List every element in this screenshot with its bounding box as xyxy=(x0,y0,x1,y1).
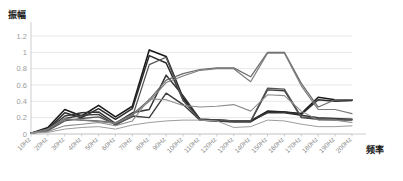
y-tick-label: 0 xyxy=(23,130,27,139)
y-tick-label: 0.8 xyxy=(17,64,27,73)
x-tick-label: 120Hz xyxy=(199,136,217,154)
chart-container: 振幅 频率 10Hz20Hz30Hz40Hz50Hz60Hz70Hz80Hz90… xyxy=(0,0,403,181)
y-tick-label: 0.4 xyxy=(17,97,27,106)
y-tick-label: 1.2 xyxy=(17,32,27,41)
x-tick-labels: 10Hz20Hz30Hz40Hz50Hz60Hz70Hz80Hz90Hz100H… xyxy=(16,136,353,154)
data-series-line xyxy=(31,50,352,133)
y-tick-label: 0.6 xyxy=(17,81,27,90)
data-series-line xyxy=(31,120,352,133)
x-tick-label: 170Hz xyxy=(284,136,302,154)
x-tick-label: 20Hz xyxy=(33,136,49,152)
x-tick-label: 190Hz xyxy=(317,136,335,154)
x-tick-label: 70Hz xyxy=(117,136,133,152)
line-chart-plot: 10Hz20Hz30Hz40Hz50Hz60Hz70Hz80Hz90Hz100H… xyxy=(0,0,403,181)
y-tick-labels: 00.20.40.60.811.2 xyxy=(17,32,27,139)
x-tick-label: 40Hz xyxy=(67,136,83,152)
y-tick-label: 1 xyxy=(23,48,27,57)
x-tick-label: 80Hz xyxy=(134,136,150,152)
data-series-line xyxy=(31,53,352,133)
x-tick-label: 30Hz xyxy=(50,136,66,152)
x-tick-label: 60Hz xyxy=(100,136,116,152)
data-series-group xyxy=(31,50,352,133)
x-tick-label: 130Hz xyxy=(216,136,234,154)
data-series-line xyxy=(31,52,352,133)
x-tick-label: 140Hz xyxy=(233,136,251,154)
x-tick-label: 110Hz xyxy=(183,136,201,154)
y-tick-label: 0.2 xyxy=(17,113,27,122)
x-tick-label: 160Hz xyxy=(267,136,285,154)
x-axis xyxy=(31,134,366,137)
x-tick-label: 100Hz xyxy=(165,136,183,154)
x-tick-label: 50Hz xyxy=(83,136,99,152)
data-series-line xyxy=(31,56,352,134)
x-tick-label: 150Hz xyxy=(250,136,268,154)
x-tick-label: 200Hz xyxy=(334,136,352,154)
x-tick-label: 180Hz xyxy=(300,136,318,154)
